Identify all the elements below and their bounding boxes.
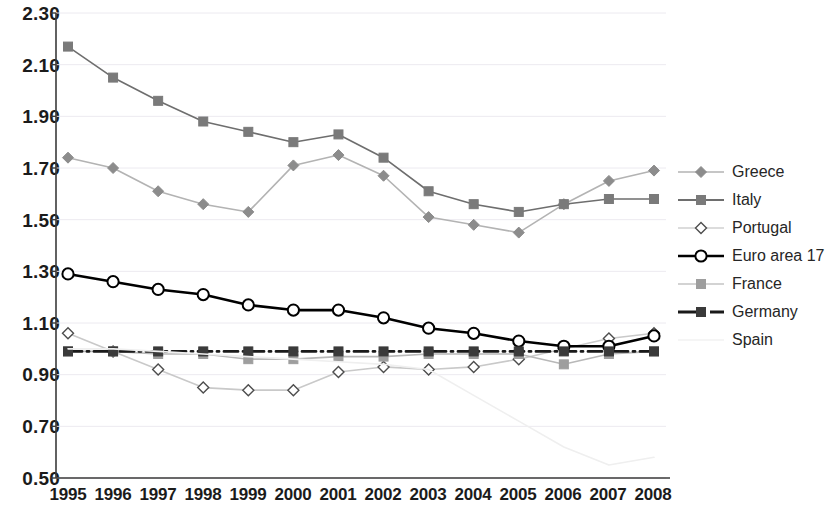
data-point	[244, 347, 253, 356]
data-point	[514, 347, 523, 356]
data-point	[289, 347, 298, 356]
line-chart: 2.30 2.10 1.90 1.70 1.50 1.30 1.10 0.90 …	[0, 0, 832, 512]
data-point	[243, 299, 254, 310]
data-point	[379, 347, 388, 356]
data-point	[424, 187, 433, 196]
data-point	[109, 73, 118, 82]
data-point	[198, 199, 209, 210]
legend-item-spain[interactable]: Spain	[676, 326, 832, 354]
data-point	[513, 335, 524, 346]
legend-item-euro-area-17[interactable]: Euro area 17	[676, 242, 832, 270]
data-point	[288, 385, 299, 396]
data-point	[199, 117, 208, 126]
data-point	[289, 138, 298, 147]
legend-item-france[interactable]: France	[676, 270, 832, 298]
data-point	[378, 312, 389, 323]
data-point	[604, 347, 613, 356]
data-point	[604, 195, 613, 204]
data-point	[288, 304, 299, 315]
data-point	[696, 223, 707, 234]
data-point	[559, 360, 568, 369]
legend-item-portugal[interactable]: Portugal	[676, 214, 832, 242]
data-point	[334, 130, 343, 139]
data-point	[108, 163, 119, 174]
data-point	[468, 361, 479, 372]
euro-area-17-series-key-icon	[676, 245, 726, 267]
legend-label: Italy	[726, 191, 761, 209]
series-line	[68, 47, 654, 212]
spain-series-key-icon	[676, 329, 726, 351]
data-point	[650, 195, 659, 204]
data-point	[468, 219, 479, 230]
data-point	[154, 96, 163, 105]
legend-label: Greece	[726, 163, 784, 181]
portugal-series-key-icon	[676, 217, 726, 239]
series-euro-area-17	[62, 268, 659, 352]
data-point	[333, 304, 344, 315]
data-point	[107, 276, 118, 287]
data-point	[378, 361, 389, 372]
legend-label: Euro area 17	[726, 247, 825, 265]
data-point	[697, 280, 706, 289]
data-point	[697, 196, 706, 205]
series-greece	[63, 150, 660, 239]
data-point	[333, 150, 344, 161]
data-point	[514, 207, 523, 216]
data-point	[649, 165, 660, 176]
data-point	[559, 200, 568, 209]
data-point	[469, 347, 478, 356]
data-point	[64, 42, 73, 51]
data-point	[379, 153, 388, 162]
greece-series-key-icon	[676, 161, 726, 183]
legend-item-germany[interactable]: Germany	[676, 298, 832, 326]
data-point	[244, 127, 253, 136]
germany-series-key-icon	[676, 301, 726, 323]
data-point	[153, 186, 164, 197]
series-portugal	[63, 328, 660, 396]
data-point	[198, 289, 209, 300]
data-point	[559, 347, 568, 356]
data-point	[62, 268, 73, 279]
data-point	[333, 367, 344, 378]
data-point	[334, 347, 343, 356]
data-point	[423, 323, 434, 334]
data-point	[63, 328, 74, 339]
series-italy	[64, 42, 659, 216]
legend-label: Spain	[726, 331, 773, 349]
legend-label: France	[726, 275, 782, 293]
legend-label: Portugal	[726, 219, 792, 237]
italy-series-key-icon	[676, 189, 726, 211]
data-point	[468, 328, 479, 339]
data-point	[650, 347, 659, 356]
data-point	[153, 284, 164, 295]
legend-item-greece[interactable]: Greece	[676, 158, 832, 186]
data-point	[153, 364, 164, 375]
legend-label: Germany	[726, 303, 798, 321]
data-point	[697, 308, 706, 317]
data-point	[513, 227, 524, 238]
france-series-key-icon	[676, 273, 726, 295]
data-point	[695, 250, 706, 261]
data-point	[603, 175, 614, 186]
data-point	[198, 382, 209, 393]
data-point	[696, 167, 707, 178]
data-point	[469, 200, 478, 209]
data-point	[648, 330, 659, 341]
chart-legend: Greece Italy Portugal Euro area 17 Franc…	[676, 158, 832, 354]
data-point	[243, 385, 254, 396]
data-point	[63, 152, 74, 163]
legend-item-italy[interactable]: Italy	[676, 186, 832, 214]
x-axis-tick-label: 2008	[627, 485, 679, 505]
data-point	[424, 347, 433, 356]
